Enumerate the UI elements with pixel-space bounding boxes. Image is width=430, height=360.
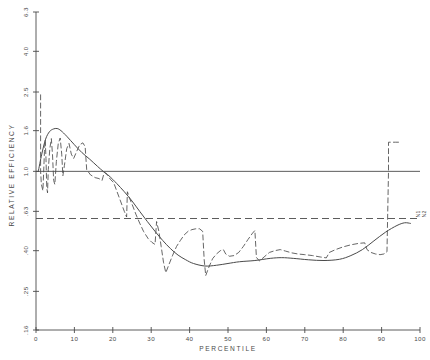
y-tick-label: 1.0 — [22, 166, 29, 176]
x-tick-label: 40 — [186, 335, 194, 342]
y-tick-label: .40 — [22, 246, 29, 256]
chart-figure: 6.34.02.51.61.0.63.40.25.16 010203040506… — [0, 0, 430, 360]
x-tick-label: 100 — [414, 335, 426, 342]
y-tick-label: .25 — [22, 286, 29, 296]
y-tick-label: 1.6 — [22, 126, 29, 136]
relative-efficiency-plot: 6.34.02.51.61.0.63.40.25.16 010203040506… — [0, 0, 430, 360]
y-tick-label: 2.5 — [22, 87, 29, 97]
right-annotation-denominator: N2 — [421, 210, 427, 217]
y-tick-label: .16 — [22, 325, 29, 335]
x-tick-label: 0 — [34, 335, 38, 342]
y-tick-label: 4.0 — [22, 46, 29, 56]
smooth-efficiency-curve — [38, 128, 410, 266]
x-tick-label: 10 — [71, 335, 79, 342]
data-series — [38, 95, 410, 276]
y-axis-title: RELATIVE EFFICIENCY — [8, 124, 15, 227]
x-axis-title: PERCENTILE — [199, 345, 256, 352]
x-tick-label: 80 — [339, 335, 347, 342]
x-tick-label: 60 — [263, 335, 271, 342]
x-tick-label: 30 — [147, 335, 155, 342]
reference-lines — [36, 171, 420, 218]
x-tick-label: 50 — [224, 335, 232, 342]
y-axis-tick-labels: 6.34.02.51.61.0.63.40.25.16 — [22, 7, 29, 335]
x-tick-label: 90 — [378, 335, 386, 342]
x-tick-label: 20 — [109, 335, 117, 342]
y-tick-label: .63 — [22, 206, 29, 216]
empirical-efficiency-curve — [41, 95, 402, 276]
x-axis-tick-labels: 0102030405060708090100 — [34, 335, 426, 342]
x-tick-label: 70 — [301, 335, 309, 342]
y-tick-label: 6.3 — [22, 7, 29, 17]
